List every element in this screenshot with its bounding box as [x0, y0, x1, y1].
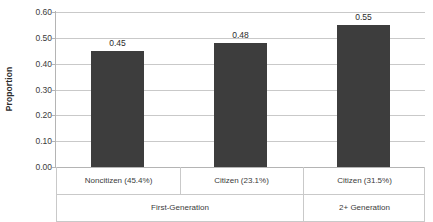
bar-value-label: 0.48	[232, 30, 249, 40]
bar-value-label: 0.45	[109, 38, 126, 48]
y-axis-tick-label: 0.20	[35, 110, 52, 120]
group-label: First-Generation	[57, 194, 303, 221]
category-axis: Noncitizen (45.4%)Citizen (23.1%)Citizen…	[56, 167, 425, 222]
y-axis-tick-label: 0.30	[35, 85, 52, 95]
y-axis-tick-mark	[52, 12, 56, 13]
y-axis-title-label: Proportion	[4, 67, 14, 111]
bar[interactable]	[91, 51, 144, 167]
y-axis-tick-mark	[52, 90, 56, 91]
y-axis-tick-labels: 0.000.100.200.300.400.500.60	[18, 0, 56, 178]
y-axis-tick-label: 0.60	[35, 7, 52, 17]
y-axis-tick-label: 0.50	[35, 33, 52, 43]
plot-area: 0.450.480.55	[56, 12, 425, 167]
category-divider	[180, 167, 181, 194]
category-label: Citizen (31.5%)	[303, 167, 426, 194]
bar[interactable]	[337, 25, 390, 167]
y-axis-tick-mark	[52, 115, 56, 116]
category-label: Noncitizen (45.4%)	[57, 167, 180, 194]
y-axis-tick-mark	[52, 141, 56, 142]
bar[interactable]	[214, 43, 267, 167]
category-label: Citizen (23.1%)	[180, 167, 303, 194]
y-axis-tick-label: 0.00	[35, 162, 52, 172]
category-axis-level-2: First-Generation2+ Generation	[57, 194, 424, 221]
y-axis-tick-mark	[52, 38, 56, 39]
y-axis-title: Proportion	[0, 0, 18, 178]
group-label: 2+ Generation	[303, 194, 426, 221]
bar-value-label: 0.55	[355, 12, 372, 22]
group-divider	[303, 194, 304, 221]
category-divider	[303, 167, 304, 194]
y-axis-tick-label: 0.40	[35, 59, 52, 69]
y-axis-tick-mark	[52, 64, 56, 65]
y-axis-tick-label: 0.10	[35, 136, 52, 146]
bar-chart: Proportion 0.000.100.200.300.400.500.60 …	[0, 0, 433, 222]
category-axis-level-1: Noncitizen (45.4%)Citizen (23.1%)Citizen…	[57, 167, 424, 194]
bars-layer: 0.450.480.55	[56, 12, 425, 167]
